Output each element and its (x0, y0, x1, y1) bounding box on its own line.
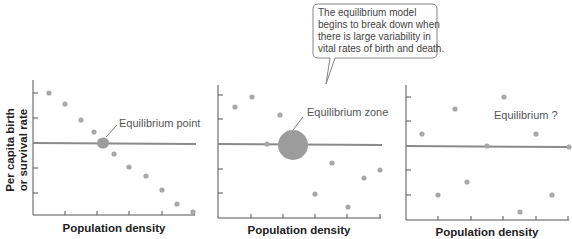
panel-equilibrium-zone: Equilibrium zone Population density (218, 85, 388, 236)
equilibrium-point-marker (97, 138, 109, 149)
annotation-leader (293, 117, 303, 130)
panel-equilibrium-question: Equilibrium ? Population density (406, 85, 572, 238)
x-axis-label: Population density (248, 224, 351, 236)
x-axis-label: Population density (63, 222, 166, 234)
svg-text:there is large variability in: there is large variability in (318, 31, 431, 42)
equilibrium-zone-marker (278, 130, 308, 160)
annotation-equilibrium-zone: Equilibrium zone (307, 106, 388, 118)
svg-text:The equilibrium model: The equilibrium model (318, 7, 416, 18)
x-axis-label: Population density (436, 226, 539, 238)
x-ticks (251, 214, 380, 218)
figure: Per capita birth or survival rate (0, 0, 572, 239)
equilibrium-line (33, 143, 196, 144)
x-ticks (438, 216, 568, 220)
y-axis-label: Per capita birth or survival rate (4, 108, 29, 192)
callout-bubble: The equilibrium model begins to break do… (313, 4, 444, 84)
svg-text:vital rates of birth and death: vital rates of birth and death. (318, 43, 444, 54)
annotation-leader (106, 125, 117, 137)
panel-equilibrium-point: Equilibrium point Population density (33, 80, 200, 234)
annotation-equilibrium-question: Equilibrium ? (494, 109, 558, 121)
svg-text:or survival rate: or survival rate (17, 109, 29, 191)
annotation-equilibrium-point: Equilibrium point (119, 117, 200, 129)
svg-text:begins to break down when: begins to break down when (318, 19, 440, 30)
svg-text:Per capita birth: Per capita birth (4, 108, 16, 192)
x-ticks (65, 211, 194, 215)
data-points (46, 90, 195, 214)
